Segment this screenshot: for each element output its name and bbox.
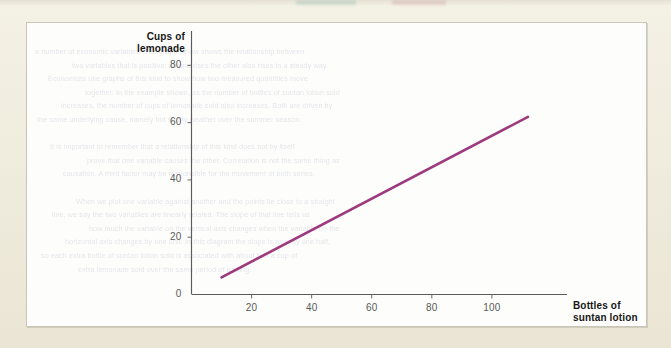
scan-color-artifact-green	[296, 0, 356, 5]
scan-color-artifact-red	[392, 0, 446, 5]
y-tick-label: 20	[128, 231, 182, 242]
chart: 020406080 20406080100 Cups of lemonade B…	[27, 23, 646, 326]
y-axis-title-line1: Cups of	[89, 31, 185, 43]
y-axis-ticks	[188, 65, 192, 237]
x-axis-title: Bottles of suntan lotion	[573, 300, 647, 323]
x-axis-title-line1: Bottles of	[573, 300, 647, 312]
x-axis-title-line2: suntan lotion	[573, 312, 647, 324]
y-tick-label: 60	[128, 116, 182, 127]
y-axis-title: Cups of lemonade	[89, 31, 185, 54]
chart-panel: a number of economic variables. The grap…	[26, 22, 647, 327]
y-tick-label: 0	[128, 288, 182, 299]
x-tick-label: 100	[462, 302, 522, 313]
y-tick-label: 80	[128, 59, 182, 70]
chart-plot-svg	[27, 23, 646, 326]
y-axis-title-line2: lemonade	[89, 43, 185, 55]
x-tick-label: 80	[402, 302, 462, 313]
x-tick-label: 40	[282, 302, 342, 313]
figure-page: a number of economic variables. The grap…	[0, 0, 671, 348]
y-tick-label: 40	[128, 173, 182, 184]
x-tick-label: 20	[222, 302, 282, 313]
data-series-line	[222, 117, 528, 277]
x-axis-ticks	[252, 295, 492, 299]
x-tick-label: 60	[342, 302, 402, 313]
